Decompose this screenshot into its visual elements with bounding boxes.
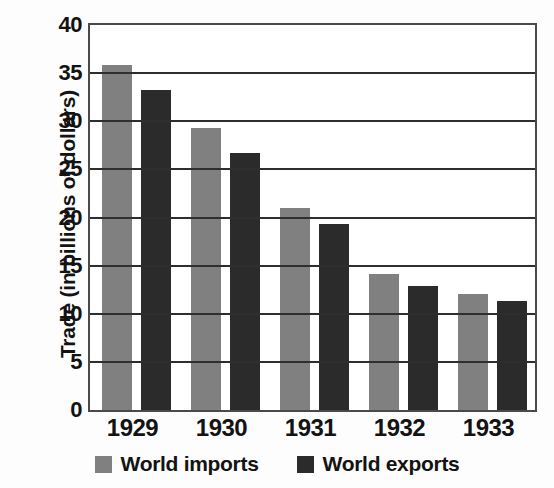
y-axis-tick-label: 15 <box>28 255 90 277</box>
bar-1933-world-exports <box>497 301 527 410</box>
bar-1932-world-exports <box>408 286 438 410</box>
gridline <box>90 313 535 315</box>
x-axis-label-1932: 1932 <box>355 414 444 442</box>
gridline <box>90 361 535 363</box>
x-axis-label-1929: 1929 <box>88 414 177 442</box>
y-axis-tick-label: 30 <box>28 110 90 132</box>
chart-legend: World importsWorld exports <box>0 452 554 476</box>
bar-1932-world-imports <box>369 274 399 410</box>
x-axis-label-1931: 1931 <box>266 414 355 442</box>
legend-label: World exports <box>323 452 460 476</box>
legend-swatch-icon <box>95 456 112 473</box>
y-axis-tick-label: 0 <box>28 399 90 421</box>
y-axis-tick-label: 5 <box>28 351 90 373</box>
gridline <box>90 72 535 74</box>
x-axis-label-1930: 1930 <box>177 414 266 442</box>
x-axis-labels: 19291930193119321933 <box>88 414 537 450</box>
bar-1931-world-exports <box>319 224 349 410</box>
gridline <box>90 217 535 219</box>
y-axis-tick-label: 10 <box>28 303 90 325</box>
bar-1931-world-imports <box>280 208 310 410</box>
bar-1933-world-imports <box>458 294 488 410</box>
y-axis-tick-label: 40 <box>28 14 90 36</box>
legend-swatch-icon <box>297 456 314 473</box>
y-axis-tick-label: 20 <box>28 207 90 229</box>
legend-item-world-imports[interactable]: World imports <box>95 452 259 476</box>
gridline <box>90 168 535 170</box>
plot-area: 0510152025303540 <box>88 23 537 412</box>
bar-1929-world-imports <box>102 65 132 410</box>
y-axis-tick-label: 25 <box>28 158 90 180</box>
y-axis-tick-label: 35 <box>28 62 90 84</box>
bar-chart: Trade (in billions of dollars) 051015202… <box>0 0 554 488</box>
legend-item-world-exports[interactable]: World exports <box>297 452 460 476</box>
gridline <box>90 265 535 267</box>
x-axis-label-1933: 1933 <box>444 414 533 442</box>
legend-label: World imports <box>121 452 259 476</box>
bar-1930-world-exports <box>230 153 260 410</box>
gridline <box>90 120 535 122</box>
